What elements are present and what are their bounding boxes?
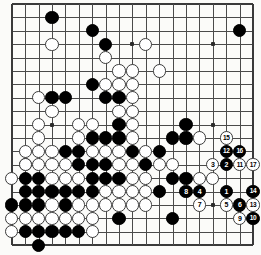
black-stone[interactable] [126, 145, 139, 158]
white-stone[interactable] [86, 118, 99, 131]
move-stone-8[interactable]: 8 [179, 185, 192, 198]
white-stone[interactable] [72, 118, 85, 131]
black-stone[interactable] [59, 145, 72, 158]
black-stone[interactable] [179, 172, 192, 185]
move-stone-16[interactable]: 16 [233, 145, 246, 158]
black-stone[interactable] [19, 172, 32, 185]
white-stone[interactable] [32, 91, 45, 104]
black-stone[interactable] [72, 158, 85, 171]
black-stone[interactable] [72, 185, 85, 198]
white-stone[interactable] [126, 198, 139, 211]
white-stone[interactable] [126, 78, 139, 91]
black-stone[interactable] [45, 225, 58, 238]
black-stone[interactable] [45, 11, 58, 24]
white-stone[interactable] [45, 38, 58, 51]
white-stone[interactable] [86, 212, 99, 225]
move-stone-9[interactable]: 9 [233, 212, 246, 225]
move-stone-17[interactable]: 17 [246, 158, 259, 171]
black-stone[interactable] [86, 78, 99, 91]
move-stone-15[interactable]: 15 [220, 131, 233, 144]
white-stone[interactable] [166, 158, 179, 171]
move-stone-7[interactable]: 7 [193, 198, 206, 211]
white-stone[interactable] [139, 198, 152, 211]
go-board[interactable]: 1234567891011121314151617 [0, 0, 261, 255]
black-stone[interactable] [112, 172, 125, 185]
white-stone[interactable] [45, 105, 58, 118]
white-stone[interactable] [19, 212, 32, 225]
black-stone[interactable] [72, 225, 85, 238]
black-stone[interactable] [233, 24, 246, 37]
white-stone[interactable] [112, 105, 125, 118]
black-stone[interactable] [112, 91, 125, 104]
move-stone-13[interactable]: 13 [246, 198, 259, 211]
white-stone[interactable] [32, 118, 45, 131]
black-stone[interactable] [112, 212, 125, 225]
black-stone[interactable] [112, 131, 125, 144]
black-stone[interactable] [153, 145, 166, 158]
white-stone[interactable] [99, 185, 112, 198]
white-stone[interactable] [19, 158, 32, 171]
black-stone[interactable] [32, 239, 45, 252]
white-stone[interactable] [112, 64, 125, 77]
white-stone[interactable] [112, 185, 125, 198]
white-stone[interactable] [59, 212, 72, 225]
white-stone[interactable] [206, 172, 219, 185]
white-stone[interactable] [153, 158, 166, 171]
white-stone[interactable] [126, 64, 139, 77]
white-stone[interactable] [153, 64, 166, 77]
black-stone[interactable] [166, 212, 179, 225]
black-stone[interactable] [19, 225, 32, 238]
black-stone[interactable] [19, 198, 32, 211]
black-stone[interactable] [72, 145, 85, 158]
black-stone[interactable] [86, 131, 99, 144]
black-stone[interactable] [32, 185, 45, 198]
white-stone[interactable] [126, 118, 139, 131]
white-stone[interactable] [193, 172, 206, 185]
black-stone[interactable] [99, 131, 112, 144]
white-stone[interactable] [86, 225, 99, 238]
white-stone[interactable] [139, 38, 152, 51]
white-stone[interactable] [112, 198, 125, 211]
black-stone[interactable] [59, 185, 72, 198]
black-stone[interactable] [86, 24, 99, 37]
move-stone-3[interactable]: 3 [206, 158, 219, 171]
white-stone[interactable] [86, 145, 99, 158]
black-stone[interactable] [86, 158, 99, 171]
move-stone-6[interactable]: 6 [233, 198, 246, 211]
black-stone[interactable] [166, 131, 179, 144]
move-stone-12[interactable]: 12 [220, 145, 233, 158]
black-stone[interactable] [59, 198, 72, 211]
black-stone[interactable] [32, 172, 45, 185]
black-stone[interactable] [59, 225, 72, 238]
white-stone[interactable] [32, 145, 45, 158]
white-stone[interactable] [99, 51, 112, 64]
black-stone[interactable] [32, 198, 45, 211]
black-stone[interactable] [45, 185, 58, 198]
white-stone[interactable] [99, 198, 112, 211]
move-stone-10[interactable]: 10 [246, 212, 259, 225]
black-stone[interactable] [5, 198, 18, 211]
white-stone[interactable] [72, 131, 85, 144]
white-stone[interactable] [72, 198, 85, 211]
black-stone[interactable] [86, 185, 99, 198]
black-stone[interactable] [179, 118, 192, 131]
white-stone[interactable] [126, 105, 139, 118]
white-stone[interactable] [139, 185, 152, 198]
white-stone[interactable] [126, 158, 139, 171]
black-stone[interactable] [166, 172, 179, 185]
white-stone[interactable] [5, 225, 18, 238]
black-stone[interactable] [99, 172, 112, 185]
white-stone[interactable] [86, 198, 99, 211]
white-stone[interactable] [99, 78, 112, 91]
black-stone[interactable] [45, 91, 58, 104]
white-stone[interactable] [193, 131, 206, 144]
black-stone[interactable] [179, 131, 192, 144]
black-stone[interactable] [139, 158, 152, 171]
white-stone[interactable] [45, 212, 58, 225]
white-stone[interactable] [72, 212, 85, 225]
white-stone[interactable] [99, 145, 112, 158]
white-stone[interactable] [112, 145, 125, 158]
white-stone[interactable] [112, 158, 125, 171]
move-stone-4[interactable]: 4 [193, 185, 206, 198]
black-stone[interactable] [59, 91, 72, 104]
